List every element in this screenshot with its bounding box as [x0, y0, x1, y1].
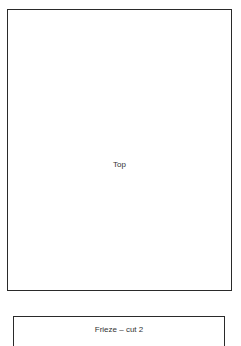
frieze-panel: Frieze – cut 2: [13, 316, 225, 346]
top-panel: Top: [7, 9, 232, 291]
top-panel-label: Top: [8, 160, 231, 169]
frieze-panel-label: Frieze – cut 2: [14, 325, 224, 334]
